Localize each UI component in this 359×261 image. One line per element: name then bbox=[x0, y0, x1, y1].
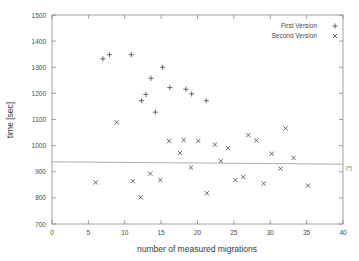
x-tick-label: 0 bbox=[50, 229, 54, 236]
data-point bbox=[246, 133, 250, 137]
data-point bbox=[183, 87, 188, 92]
data-point bbox=[306, 183, 310, 187]
x-tick-label: 5 bbox=[87, 229, 91, 236]
data-point bbox=[233, 178, 237, 182]
legend-label: Second Version bbox=[271, 32, 317, 39]
chart-figure: 0510152025303540 70080090010001100120013… bbox=[0, 0, 359, 261]
data-point bbox=[160, 65, 165, 70]
legend-label: First Version bbox=[281, 22, 318, 29]
y-tick-label: 900 bbox=[35, 168, 46, 175]
data-point bbox=[131, 179, 135, 183]
data-point bbox=[139, 98, 144, 103]
x-axis-title: number of measured migrations bbox=[137, 244, 257, 254]
y-axis-ticks bbox=[52, 15, 343, 224]
y-tick-label: 1400 bbox=[32, 38, 47, 45]
series-first-version bbox=[100, 52, 209, 115]
data-point bbox=[226, 146, 230, 150]
y-tick-label: 1300 bbox=[32, 64, 47, 71]
data-point bbox=[153, 110, 158, 115]
data-point bbox=[143, 92, 148, 97]
data-point bbox=[204, 98, 209, 103]
y-axis-title: time [sec] bbox=[5, 102, 15, 138]
data-point bbox=[158, 178, 162, 182]
y-axis-tick-labels: 700800900100011001200130014001500 bbox=[32, 12, 47, 228]
x-tick-label: 15 bbox=[158, 229, 166, 236]
data-point bbox=[100, 56, 105, 61]
x-tick-label: 40 bbox=[339, 229, 347, 236]
data-point bbox=[167, 139, 171, 143]
data-point bbox=[254, 138, 258, 142]
y-tick-label: 1500 bbox=[32, 12, 47, 19]
data-point bbox=[205, 191, 209, 195]
data-point bbox=[182, 138, 186, 142]
data-point bbox=[94, 180, 98, 184]
data-point bbox=[219, 159, 223, 163]
legend-cross-icon bbox=[333, 34, 337, 38]
data-point bbox=[115, 120, 119, 124]
data-point bbox=[148, 76, 153, 81]
reference-line bbox=[52, 162, 343, 164]
x-tick-label: 30 bbox=[267, 229, 275, 236]
data-point bbox=[167, 85, 172, 90]
data-point bbox=[291, 156, 295, 160]
data-point bbox=[189, 165, 193, 169]
x-tick-label: 10 bbox=[121, 229, 129, 236]
y-tick-label: 800 bbox=[35, 194, 46, 201]
data-point bbox=[148, 171, 152, 175]
y-tick-label: 1100 bbox=[32, 116, 46, 123]
y-tick-label: 1000 bbox=[32, 142, 47, 149]
series-second-version bbox=[94, 120, 311, 199]
data-point bbox=[178, 151, 182, 155]
data-point bbox=[189, 91, 194, 96]
x-tick-label: 20 bbox=[194, 229, 202, 236]
scatter-plot: 0510152025303540 70080090010001100120013… bbox=[0, 0, 359, 261]
legend-plus-icon bbox=[332, 23, 337, 28]
reference-line-annotation: (*) bbox=[346, 165, 352, 171]
x-axis-ticks bbox=[52, 15, 343, 224]
data-point bbox=[213, 142, 217, 146]
x-tick-label: 35 bbox=[303, 229, 311, 236]
data-point bbox=[129, 52, 134, 57]
x-tick-label: 25 bbox=[230, 229, 238, 236]
x-axis-tick-labels: 0510152025303540 bbox=[50, 229, 347, 236]
data-point bbox=[262, 181, 266, 185]
y-tick-label: 700 bbox=[35, 221, 46, 228]
data-point bbox=[139, 195, 143, 199]
legend: First VersionSecond Version bbox=[271, 22, 337, 39]
y-tick-label: 1200 bbox=[32, 90, 47, 97]
data-point bbox=[241, 175, 245, 179]
data-point bbox=[270, 152, 274, 156]
data-point bbox=[107, 52, 112, 57]
data-point bbox=[196, 139, 200, 143]
plot-frame bbox=[52, 15, 343, 224]
data-point bbox=[278, 166, 282, 170]
data-point bbox=[283, 126, 287, 130]
